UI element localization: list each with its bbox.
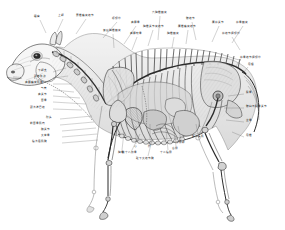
anatomy-label: 胸椎棘突	[167, 33, 179, 36]
anatomy-label: 寰椎横突结节	[76, 15, 94, 18]
anatomy-label: 髋结节	[186, 18, 195, 21]
anatomy-label: 臂骨	[41, 100, 47, 103]
anatomy-label: 肝	[148, 146, 151, 149]
anatomy-label: 尾椎	[246, 135, 252, 138]
anatomy-label: 颈静脉沟	[34, 76, 46, 79]
anatomy-label: 荐结节阔韧带	[222, 33, 240, 36]
anatomy-label: 肩胛横突肌腱	[25, 82, 43, 85]
anatomy-illustration	[0, 0, 285, 230]
anatomy-label: 六胸椎棘突	[152, 12, 167, 15]
anatomy-label: 荐骨结节阔韧带	[240, 57, 261, 60]
anatomy-label: 腕关节	[41, 129, 50, 132]
anatomy-label: 胸椎关节突结节	[143, 26, 164, 29]
anatomy-label: 第十八肋骨	[122, 152, 137, 155]
anatomy-label: 股二头肌	[192, 136, 204, 139]
anatomy-label: 盲肠	[172, 148, 178, 151]
anatomy-label: 肩胛骨	[131, 22, 140, 25]
anatomy-label: 上颌	[58, 15, 64, 18]
anatomy-label: 下颌支	[38, 70, 47, 73]
anatomy-label: 心	[134, 146, 137, 149]
anatomy-label: 项韧带	[112, 18, 121, 21]
anatomy-label: 肘头	[46, 117, 52, 120]
anatomy-label: 腰椎横突结节	[178, 26, 196, 29]
anatomy-label: 股骨	[246, 92, 252, 95]
anatomy-label: 前臂骨肌肉	[30, 123, 45, 126]
anatomy-label: 髋臼与股骨关节	[246, 106, 267, 109]
anatomy-label: 颈浅淋巴结	[30, 107, 45, 110]
anatomy-label: 坐骨	[246, 120, 252, 123]
anatomy-label: 指浅屈肌腱	[32, 141, 47, 144]
anatomy-label: 十二指肠	[160, 152, 172, 155]
anatomy-label: 腰荐关节	[212, 22, 224, 25]
anatomy-label: 肩胛软骨	[130, 33, 142, 36]
anatomy-label: 小肠袢	[176, 142, 185, 145]
anatomy-label: 荐骨棘突	[236, 22, 248, 25]
anatomy-label: 肩关节	[38, 94, 47, 97]
anatomy-label: 眼窝	[34, 16, 40, 19]
anatomy-label: 大掌骨	[41, 135, 50, 138]
anatomy-label: 气管	[41, 88, 47, 91]
anatomy-label: 尾根	[248, 64, 254, 67]
anatomy-label: 耻下大结节腱	[136, 158, 154, 161]
anatomy-label: 最后胸椎棘突	[103, 30, 121, 33]
horse-anatomy-figure: 眼窝上颌寰椎横突结节项韧带肩胛骨六胸椎棘突胸椎关节突结节腰椎横突结节腰荐关节荐骨…	[0, 0, 285, 230]
